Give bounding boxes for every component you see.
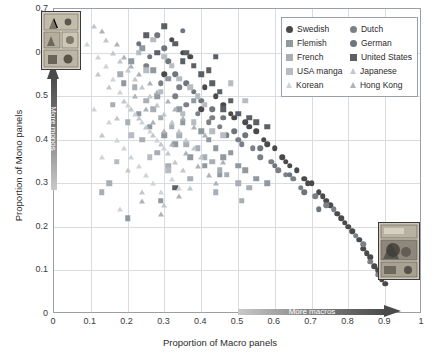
legend-item-flemish[interactable]: Flemish: [286, 36, 345, 50]
data-point: [132, 94, 138, 99]
legend-item-united-states[interactable]: United States: [350, 50, 412, 64]
data-point: [162, 45, 168, 51]
data-point: [209, 159, 215, 165]
data-point: [162, 54, 168, 60]
legend-label: Swedish: [297, 25, 329, 34]
data-point: [121, 80, 127, 86]
gridline-vertical: [201, 9, 202, 312]
data-point: [283, 159, 289, 165]
data-point: [136, 163, 142, 168]
data-point: [150, 181, 156, 186]
data-point: [198, 155, 204, 160]
data-point: [84, 41, 90, 46]
more-monos-arrow: More monos: [47, 62, 60, 190]
data-point: [143, 107, 149, 112]
data-point: [257, 146, 263, 152]
data-point: [154, 102, 160, 107]
data-point: [209, 106, 215, 112]
x-tick-label: 0.4: [194, 316, 207, 326]
data-point: [313, 194, 319, 200]
data-point: [301, 189, 307, 195]
data-point: [147, 54, 153, 60]
data-point: [246, 124, 252, 130]
legend-item-german[interactable]: German: [350, 36, 412, 50]
data-point: [228, 80, 234, 86]
legend-item-french[interactable]: French: [286, 50, 345, 64]
gridline-vertical: [275, 9, 276, 312]
legend-item-korean[interactable]: Korean: [286, 78, 345, 92]
data-point: [106, 85, 112, 90]
legend-marker-circle: [350, 26, 357, 33]
legend-marker-triangle: [350, 82, 356, 88]
data-point: [221, 106, 227, 112]
data-point: [220, 159, 226, 164]
data-point: [202, 163, 208, 169]
data-point: [213, 146, 219, 152]
data-point: [217, 124, 223, 130]
data-point: [239, 141, 245, 147]
data-point: [147, 129, 153, 134]
data-point: [143, 67, 149, 73]
data-point: [254, 120, 260, 126]
data-point: [114, 41, 120, 46]
legend-item-dutch[interactable]: Dutch: [350, 22, 412, 36]
data-point: [195, 93, 201, 99]
legend: SwedishDutchFlemishGermanFrenchUnited St…: [281, 17, 418, 97]
legend-marker-square: [286, 68, 293, 75]
data-point: [110, 50, 116, 55]
data-point: [217, 167, 223, 173]
y-tick-label: 0.1: [22, 264, 48, 274]
legend-item-swedish[interactable]: Swedish: [286, 22, 345, 36]
legend-marker-triangle: [350, 68, 356, 74]
data-point: [213, 181, 219, 186]
x-tick-label: 0.3: [157, 316, 170, 326]
legend-item-hong-kong[interactable]: Hong Kong: [350, 78, 412, 92]
data-point: [195, 163, 201, 168]
data-point: [136, 41, 142, 47]
data-point: [140, 137, 146, 143]
data-point: [99, 28, 105, 33]
data-point: [165, 167, 171, 173]
x-tick-label: 0.1: [84, 316, 97, 326]
data-point: [99, 133, 105, 138]
data-point: [180, 28, 186, 34]
data-point: [206, 67, 212, 73]
data-point: [139, 190, 145, 195]
data-point: [187, 176, 193, 182]
comic-page-mono-example-thumbnail: [41, 11, 81, 70]
data-point: [183, 137, 189, 142]
data-point: [173, 41, 179, 47]
data-point: [147, 94, 153, 99]
data-point: [136, 72, 142, 77]
gridline-vertical: [91, 9, 92, 312]
legend-item-japanese[interactable]: Japanese: [350, 64, 412, 78]
data-point: [209, 115, 215, 121]
data-point: [183, 150, 189, 155]
legend-marker-triangle: [286, 82, 292, 88]
data-point: [202, 133, 208, 138]
data-point: [176, 194, 182, 199]
arrow-head: [384, 305, 401, 317]
legend-label: USA manga: [297, 67, 342, 76]
data-point: [246, 185, 252, 191]
data-point: [125, 68, 131, 73]
data-point: [169, 120, 175, 125]
data-point: [221, 133, 227, 139]
data-point: [161, 146, 167, 151]
legend-label: United States: [361, 53, 412, 62]
data-point: [132, 76, 138, 81]
data-point: [202, 85, 208, 91]
data-point: [172, 107, 178, 112]
data-point: [305, 181, 311, 187]
y-tick-label: 0: [22, 308, 48, 318]
data-point: [95, 54, 101, 59]
gridline-vertical: [128, 9, 129, 312]
data-point: [187, 85, 193, 91]
data-point: [217, 89, 223, 95]
data-point: [272, 146, 278, 152]
legend-item-usa-manga[interactable]: USA manga: [286, 64, 345, 78]
data-point: [176, 129, 182, 134]
legend-label: Korean: [296, 81, 323, 90]
legend-marker-square: [350, 54, 357, 61]
data-point: [125, 120, 131, 126]
